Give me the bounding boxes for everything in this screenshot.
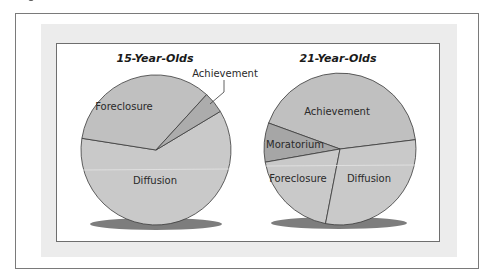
pie-15-year-olds: 15-Year-Olds Foreclosure Achievement Dif…: [81, 52, 258, 230]
label-achievement-15: Achievement: [192, 68, 258, 79]
label-diffusion-21: Diffusion: [347, 173, 391, 184]
label-foreclosure-21: Foreclosure: [269, 173, 327, 184]
label-moratorium-21: Moratorium: [266, 139, 324, 150]
label-foreclosure-15: Foreclosure: [95, 101, 153, 112]
pie-title-21: 21-Year-Olds: [299, 52, 376, 65]
label-diffusion-15: Diffusion: [133, 175, 177, 186]
pie-charts: 15-Year-Olds Foreclosure Achievement Dif…: [0, 0, 495, 277]
label-achievement-21: Achievement: [304, 106, 370, 117]
pie-title-15: 15-Year-Olds: [116, 52, 193, 65]
pie-21-year-olds: 21-Year-Olds Achievement Moratorium Fore…: [264, 52, 416, 229]
